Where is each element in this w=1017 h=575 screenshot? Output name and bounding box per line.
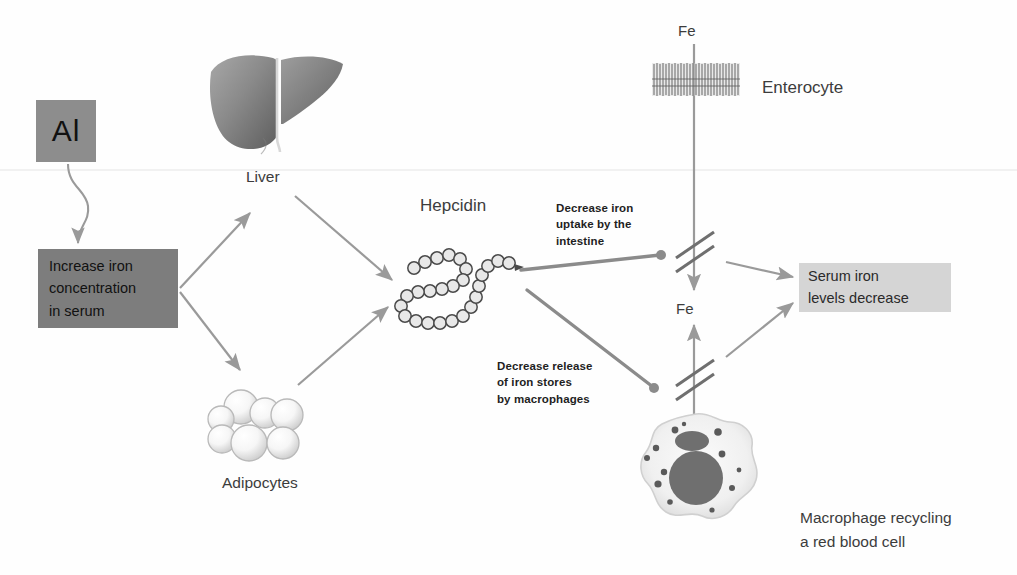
- inhibition-macrophage-line-1: Decrease release: [497, 358, 617, 374]
- arrow-adipocytes-to-hepcidin: [298, 307, 388, 385]
- hepcidin-label: Hepcidin: [420, 196, 486, 216]
- serum-decrease-line-2: levels decrease: [808, 288, 942, 310]
- fe-top-label: Fe: [678, 22, 696, 39]
- macrophage-cell-icon: [634, 410, 764, 528]
- diagram-canvas: Al Increase iron concentration in serum …: [0, 0, 1017, 575]
- inhibitor-dot-macrophage: [649, 383, 659, 393]
- increase-iron-concentration-box: Increase iron concentration in serum: [38, 249, 178, 328]
- inhibition-macrophage-line-3: by macrophages: [497, 391, 617, 407]
- aluminium-label: Al: [52, 114, 81, 148]
- engulfed-red-blood-cell: [675, 431, 709, 451]
- arrow-increase-to-liver: [180, 213, 250, 288]
- serum-decrease-line-1: Serum iron: [808, 266, 942, 288]
- macrophage-caption: Macrophage recycling a red blood cell: [800, 506, 1000, 554]
- macrophage-nucleus: [669, 451, 723, 505]
- arrow-to-serum-from-macrophage: [726, 303, 793, 357]
- inhibition-label-macrophage: Decrease release of iron stores by macro…: [497, 358, 617, 407]
- arrow-to-serum-from-intestine: [726, 262, 793, 277]
- increase-iron-line-3: in serum: [49, 300, 168, 322]
- adipocytes-label: Adipocytes: [222, 474, 298, 492]
- liver-label: Liver: [246, 168, 280, 186]
- increase-iron-line-1: Increase iron: [49, 255, 168, 277]
- inhibitor-dot-intestine: [656, 250, 666, 260]
- inhibition-macrophage-line-2: of iron stores: [497, 374, 617, 390]
- inhibition-label-intestine: Decrease iron uptake by the intestine: [556, 200, 666, 249]
- arrow-al-to-increase-iron: [68, 164, 88, 243]
- adipocyte-cluster-icon: [205, 385, 311, 471]
- inhibition-intestine-line-2: uptake by the: [556, 216, 666, 232]
- inhibition-intestine-line-3: intestine: [556, 233, 666, 249]
- microvilli-brush-border-icon: [652, 60, 740, 100]
- liver-organ-icon: [203, 46, 349, 164]
- macrophage-caption-line-1: Macrophage recycling: [800, 506, 1000, 530]
- inhibitor-line-intestine: [521, 255, 660, 270]
- arrow-liver-to-hepcidin: [295, 196, 392, 280]
- increase-iron-line-2: concentration: [49, 277, 168, 299]
- aluminium-node-box: Al: [36, 100, 96, 162]
- fe-middle-label: Fe: [676, 300, 694, 317]
- macrophage-caption-line-2: a red blood cell: [800, 530, 1000, 554]
- peptide-chain-icon: [392, 237, 524, 335]
- enterocyte-label: Enterocyte: [762, 78, 843, 98]
- serum-iron-levels-decrease-box: Serum iron levels decrease: [799, 263, 951, 312]
- inhibition-intestine-line-1: Decrease iron: [556, 200, 666, 216]
- arrow-increase-to-adipocytes: [180, 292, 240, 370]
